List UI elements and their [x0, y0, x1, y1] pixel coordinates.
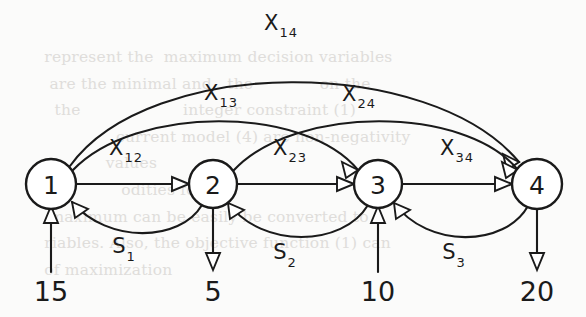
demand-value-node-4: 20	[520, 276, 554, 307]
supply-value-node-1: 15	[34, 276, 68, 307]
edge-x34[interactable]	[402, 177, 512, 191]
node-4-label: 4	[529, 171, 545, 200]
svg-text:X12: X12	[109, 136, 143, 165]
node-2-label: 2	[205, 171, 221, 200]
edge-x23[interactable]	[237, 177, 354, 191]
edge-label-s3: S3	[442, 240, 466, 270]
edge-label-x23-subscript: 23	[288, 150, 307, 165]
edge-label-x14: X14	[264, 11, 298, 40]
edge-label-x12-base: X	[109, 136, 123, 160]
svg-text:X34: X34	[440, 136, 474, 165]
edge-label-s1: S1	[112, 234, 136, 264]
node-4[interactable]: 4	[512, 159, 562, 209]
edge-label-x13-base: X	[204, 81, 218, 105]
demand-arrow-node-4[interactable]	[530, 209, 544, 270]
edge-label-x24-base: X	[342, 82, 356, 106]
edge-label-x23-base: X	[273, 136, 287, 160]
edge-label-s1-subscript: 1	[127, 249, 136, 264]
edge-s2[interactable]	[228, 203, 368, 237]
demand-value-node-2: 5	[204, 276, 221, 307]
edge-label-s2-base: S	[273, 240, 286, 264]
supply-arrow-node-1[interactable]	[44, 206, 58, 272]
edge-label-x34: X34	[440, 136, 474, 165]
supply-arrow-node-3[interactable]	[371, 206, 385, 272]
edge-s2-path	[228, 203, 368, 237]
edge-label-x12: X12	[109, 136, 143, 165]
edge-label-x14-subscript: 14	[279, 25, 298, 40]
edge-label-x12-subscript: 12	[124, 150, 143, 165]
edge-x34-arrowhead	[495, 177, 512, 191]
edge-label-s2: S2	[273, 240, 297, 270]
edge-x12[interactable]	[76, 177, 189, 191]
demand-arrow-node-2-head	[206, 253, 220, 270]
edge-label-x24-subscript: 24	[357, 96, 376, 111]
node-2[interactable]: 2	[189, 160, 237, 208]
edge-s1-path	[72, 202, 202, 233]
edge-label-x34-subscript: 34	[455, 150, 474, 165]
edge-label-x34-base: X	[440, 136, 454, 160]
svg-text:S1: S1	[112, 234, 136, 264]
edge-label-x23: X23	[273, 136, 307, 165]
demand-arrow-node-2[interactable]	[206, 209, 220, 270]
node-1[interactable]: 1	[26, 159, 76, 209]
edge-label-x14-base: X	[264, 11, 278, 35]
diagram-page: represent the maximum decision variables…	[0, 0, 586, 317]
edge-label-s2-subscript: 2	[288, 255, 297, 270]
supply-value-node-3: 10	[361, 276, 395, 307]
edge-label-s3-subscript: 3	[457, 255, 466, 270]
edge-label-s3-base: S	[442, 240, 455, 264]
edge-s3-path	[394, 203, 528, 237]
node-3[interactable]: 3	[354, 160, 402, 208]
network-flow-graph: 1 2 3 4 X14 X13 X24	[0, 0, 586, 317]
edge-s3[interactable]	[394, 203, 528, 237]
edge-s1[interactable]	[72, 202, 202, 233]
node-3-label: 3	[370, 171, 386, 200]
node-1-label: 1	[43, 171, 59, 200]
demand-arrow-node-4-head	[530, 253, 544, 270]
svg-text:X23: X23	[273, 136, 307, 165]
svg-text:S2: S2	[273, 240, 297, 270]
svg-text:S3: S3	[442, 240, 466, 270]
edge-x12-arrowhead	[172, 177, 189, 191]
edge-label-x13-subscript: 13	[219, 95, 238, 110]
edge-label-s1-base: S	[112, 234, 125, 258]
svg-text:X14: X14	[264, 11, 298, 40]
